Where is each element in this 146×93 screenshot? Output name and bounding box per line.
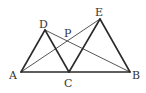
label-E: E (95, 6, 103, 19)
segment-AE (21, 19, 100, 72)
segment-CE (69, 19, 100, 72)
segment-EB (100, 19, 130, 72)
labels-group: A C B D E P (8, 6, 140, 90)
segment-AD (21, 30, 45, 72)
label-C: C (64, 77, 72, 90)
label-D: D (39, 18, 48, 31)
geometry-diagram: A C B D E P (0, 0, 146, 93)
label-P: P (64, 27, 72, 40)
label-B: B (132, 69, 140, 82)
label-A: A (8, 69, 18, 82)
segments-group (21, 19, 130, 72)
